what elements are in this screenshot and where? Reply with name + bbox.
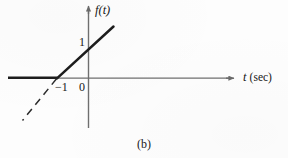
x-tick-label-minus-one: −1 [55,81,68,93]
figure-container: f(t) t (sec) 1 −1 0 (b) [0,0,288,158]
x-axis-label: t (sec) [243,71,272,84]
figure-caption: (b) [0,138,288,150]
curve-dashed-extension [23,79,57,121]
x-tick-label-zero: 0 [79,81,85,93]
curve-ramp-segment [57,27,114,79]
y-axis-label: f(t) [95,4,110,17]
y-axis-label-text: f(t) [95,3,110,17]
y-tick-label-one: 1 [79,36,85,48]
x-axis-units: (sec) [250,71,272,83]
